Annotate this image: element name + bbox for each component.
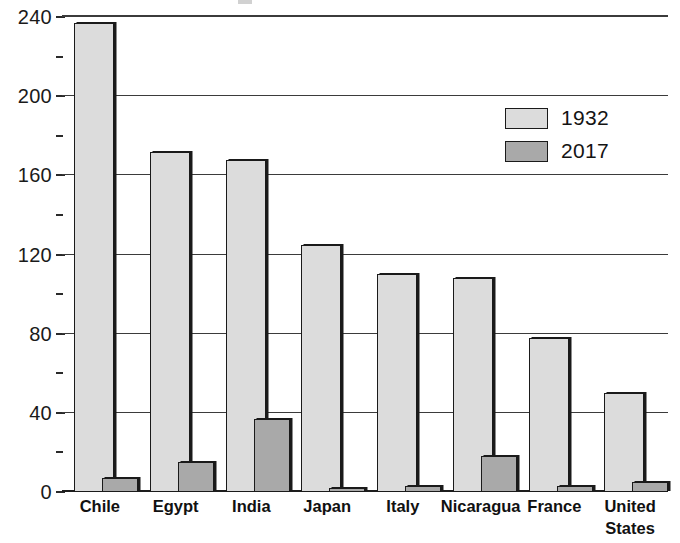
bar-group-italy: [365, 10, 441, 492]
x-tick-label-japan: Japan: [289, 496, 365, 518]
y-tick-label-240: 240: [6, 6, 52, 29]
x-tick-label-india: India: [214, 496, 290, 518]
x-tick-label-france: France: [517, 496, 593, 518]
y-tick-label-40: 40: [6, 401, 52, 424]
bar-chart: 24020016012080400 ChileEgyptIndiaJapanIt…: [0, 0, 680, 543]
legend-item-1932: 1932: [505, 106, 609, 130]
bar-2017-chile: [102, 478, 138, 492]
bar-2017-nicaragua: [481, 456, 517, 492]
y-tick-label-160: 160: [6, 164, 52, 187]
legend-item-2017: 2017: [505, 139, 609, 163]
bar-2017-india: [254, 419, 290, 492]
bar-1932-chile: [74, 23, 114, 492]
x-tick-label-egypt: Egypt: [138, 496, 214, 518]
bar-group-nicaragua: [441, 10, 517, 492]
y-tick-label-80: 80: [6, 322, 52, 345]
bar-1932-japan: [301, 245, 341, 492]
bar-1932-egypt: [150, 152, 190, 492]
bars-layer: [62, 10, 668, 492]
bar-group-india: [214, 10, 290, 492]
bar-group-france: [517, 10, 593, 492]
legend-swatch-1932: [505, 108, 548, 129]
legend-swatch-2017: [505, 141, 548, 162]
bar-2017-united-states: [632, 482, 668, 492]
bar-2017-italy: [405, 486, 441, 492]
bar-2017-japan: [329, 488, 365, 492]
bar-2017-france: [557, 486, 593, 492]
x-tick-label-united-states: United States: [592, 496, 668, 540]
bar-2017-egypt: [178, 462, 214, 492]
y-tick-label-0: 0: [6, 481, 52, 504]
x-tick-label-italy: Italy: [365, 496, 441, 518]
bar-1932-united-states: [604, 393, 644, 492]
bar-1932-italy: [377, 274, 417, 492]
y-tick-label-120: 120: [6, 243, 52, 266]
legend-label-1932: 1932: [561, 106, 609, 130]
bar-group-egypt: [138, 10, 214, 492]
bar-group-united-states: [592, 10, 668, 492]
bar-group-chile: [62, 10, 138, 492]
bar-1932-france: [529, 338, 569, 492]
cropped-title-artifact: [238, 0, 252, 4]
bar-group-japan: [289, 10, 365, 492]
chart-legend: 1932 2017: [505, 106, 609, 172]
x-tick-label-nicaragua: Nicaragua: [441, 496, 517, 518]
x-tick-label-chile: Chile: [62, 496, 138, 518]
y-axis-labels: 24020016012080400: [0, 10, 52, 492]
x-axis-labels: ChileEgyptIndiaJapanItalyNicaraguaFrance…: [62, 496, 668, 542]
legend-label-2017: 2017: [561, 139, 609, 163]
y-tick-label-200: 200: [6, 85, 52, 108]
